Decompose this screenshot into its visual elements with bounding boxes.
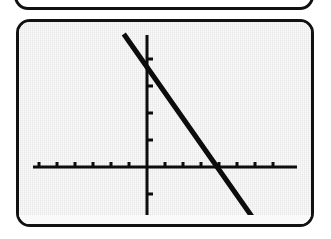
calculator-screen[interactable] (16, 19, 314, 227)
graph-plot[interactable] (19, 22, 311, 224)
lcd-status-strip (19, 215, 311, 224)
plotted-line-series-1[interactable] (125, 36, 251, 216)
partial-screen-above (14, 0, 314, 10)
